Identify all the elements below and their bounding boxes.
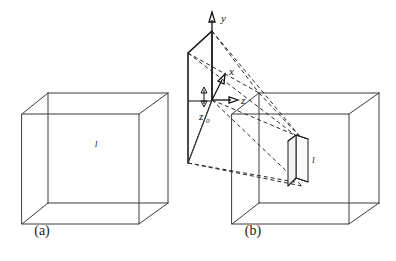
z0-axis-label-subscript: 0 [206, 117, 210, 125]
projection-plane [188, 31, 212, 163]
cube-b-diagonal-bottom-right [349, 203, 379, 224]
projection-ray-mid-long [259, 93, 302, 139]
cube-a-interior-mark: I [94, 140, 98, 149]
panel-a-cube [22, 93, 168, 224]
projection-ray-bottom-to-cube [188, 163, 302, 186]
cube-a-diagonal-bottom-right [139, 203, 168, 224]
interior-slab-front-face [296, 135, 308, 182]
cube-b-interior-mark: I [311, 156, 315, 165]
interior-slab-left-face [288, 135, 296, 186]
cube-a-diagonal-top-left [22, 93, 48, 114]
projection-ray-top-to-cube-back-top [212, 31, 302, 139]
figure-canvas: I (a) [0, 0, 396, 261]
x-axis-label: x [228, 65, 234, 77]
cube-a-diagonal-top-right [139, 93, 168, 114]
figure-root: I (a) [0, 0, 396, 261]
z0-axis-label: z [198, 110, 204, 122]
cube-b-diagonal-bottom-left [232, 203, 259, 224]
cube-b-diagonal-top-right [349, 93, 379, 114]
z-axis-label: z [240, 94, 246, 106]
y-axis-label: y [220, 12, 226, 24]
cube-b-diagonal-top-left [232, 93, 259, 114]
projection-ray-plane-top-to-cube-corner [212, 31, 259, 93]
interior-slab [288, 135, 308, 186]
projection-plane-face [188, 31, 212, 163]
cube-a-front-face-edges [22, 114, 139, 224]
panel-a-label: (a) [34, 223, 50, 239]
cube-a-diagonal-bottom-left [22, 203, 48, 224]
x-axis-line [212, 80, 222, 100]
projection-ray-axis-origin-to-slab [212, 100, 295, 135]
panel-b-label: (b) [245, 223, 262, 239]
